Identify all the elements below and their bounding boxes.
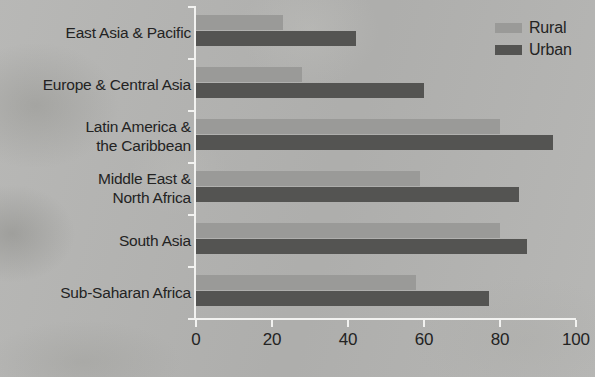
x-axis-tick-label: 20 <box>247 330 297 350</box>
category-label: Sub-Saharan Africa <box>5 283 191 302</box>
bar-rural <box>196 119 500 134</box>
x-axis-tick <box>271 320 273 327</box>
x-axis-tick-label: 100 <box>551 330 595 350</box>
x-axis-tick-label: 60 <box>399 330 449 350</box>
bar-urban <box>196 31 356 46</box>
bar-urban <box>196 187 519 202</box>
bar-group: Europe & Central Asia <box>0 58 595 110</box>
x-axis-tick <box>499 320 501 327</box>
x-axis-tick <box>347 320 349 327</box>
category-label-line: North Africa <box>5 188 191 207</box>
bar-urban <box>196 291 489 306</box>
legend-label: Rural <box>529 19 566 37</box>
legend-label: Urban <box>529 41 572 59</box>
bar-rural <box>196 275 416 290</box>
category-label: East Asia & Pacific <box>5 23 191 42</box>
category-label-line: South Asia <box>5 231 191 250</box>
bar-group: Sub-Saharan Africa <box>0 266 595 318</box>
bar-group: South Asia <box>0 214 595 266</box>
x-axis-tick <box>423 320 425 327</box>
legend-swatch <box>495 23 522 33</box>
chart-container: East Asia & PacificEurope & Central Asia… <box>0 0 595 377</box>
bar-rural <box>196 15 283 30</box>
category-label: Latin America &the Caribbean <box>5 117 191 155</box>
x-axis-line <box>194 318 576 320</box>
category-label-line: the Caribbean <box>5 136 191 155</box>
bar-urban <box>196 239 527 254</box>
category-label: Middle East &North Africa <box>5 169 191 207</box>
category-label: South Asia <box>5 231 191 250</box>
bar-group: Latin America &the Caribbean <box>0 110 595 162</box>
bar-urban <box>196 83 424 98</box>
bar-rural <box>196 171 420 186</box>
x-axis-tick-label: 40 <box>323 330 373 350</box>
x-axis-tick <box>575 320 577 327</box>
category-label-line: Europe & Central Asia <box>5 75 191 94</box>
x-axis-tick-label: 0 <box>171 330 221 350</box>
legend-item: Urban <box>495 40 572 60</box>
category-label-line: Middle East & <box>5 169 191 188</box>
category-label-line: Sub-Saharan Africa <box>5 283 191 302</box>
bar-rural <box>196 223 500 238</box>
x-axis-tick-label: 80 <box>475 330 525 350</box>
legend-swatch <box>495 45 522 55</box>
legend-item: Rural <box>495 18 572 38</box>
bar-rural <box>196 67 302 82</box>
bar-group: Middle East &North Africa <box>0 162 595 214</box>
y-axis-tick <box>188 318 195 320</box>
chart-legend: RuralUrban <box>495 18 572 62</box>
category-label-line: East Asia & Pacific <box>5 23 191 42</box>
bar-urban <box>196 135 553 150</box>
category-label-line: Latin America & <box>5 117 191 136</box>
category-label: Europe & Central Asia <box>5 75 191 94</box>
x-axis-tick <box>195 320 197 327</box>
